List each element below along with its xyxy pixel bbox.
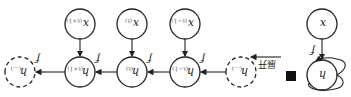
rnn-unfold-diagram: x h f 展开 h (...) h (t−1) h (t) h (t+1) [0,0,351,97]
svg-text:(t−1): (t−1) [171,18,187,25]
svg-text:f: f [34,52,41,65]
svg-text:(t+1): (t+1) [66,18,82,25]
unfolded-rnn: h (...) h (t−1) h (t) h (t+1) h (...) f … [5,9,256,87]
folded-x-label: x [319,17,326,30]
svg-text:f: f [94,52,101,65]
delay-square-icon [286,71,296,81]
diagram-svg: x h f 展开 h (...) h (t−1) h (t) h (t+1) [0,0,351,97]
svg-text:(t): (t) [125,18,132,25]
svg-text:(t+1): (t+1) [67,66,83,73]
folded-f-label: f [309,44,316,57]
svg-text:x: x [187,17,194,30]
svg-text:x: x [82,17,89,30]
folded-h-label: h [319,68,326,81]
svg-text:(t−1): (t−1) [172,66,188,73]
svg-text:(t): (t) [126,66,133,73]
svg-text:f: f [146,52,153,65]
svg-text:(...): (...) [11,66,21,73]
svg-text:(...): (...) [232,66,242,73]
svg-text:x: x [132,17,139,30]
unfold-label: 展开 [258,59,276,69]
folded-rnn: x h f [286,9,345,90]
svg-text:f: f [199,52,206,65]
